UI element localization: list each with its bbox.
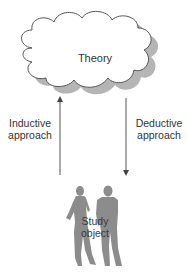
inductive-label-line2: approach <box>2 129 58 141</box>
deductive-label-line2: approach <box>130 129 188 141</box>
inductive-label-line1: Inductive <box>2 117 58 129</box>
theory-label: Theory <box>70 52 120 64</box>
deductive-approach-label: Deductive approach <box>130 117 188 141</box>
study-label-line2: object <box>78 227 112 239</box>
study-object-label: Study object <box>78 215 112 239</box>
deductive-label-line1: Deductive <box>130 117 188 129</box>
inductive-approach-label: Inductive approach <box>2 117 58 141</box>
study-label-line1: Study <box>78 215 112 227</box>
theory-cloud <box>22 11 152 87</box>
